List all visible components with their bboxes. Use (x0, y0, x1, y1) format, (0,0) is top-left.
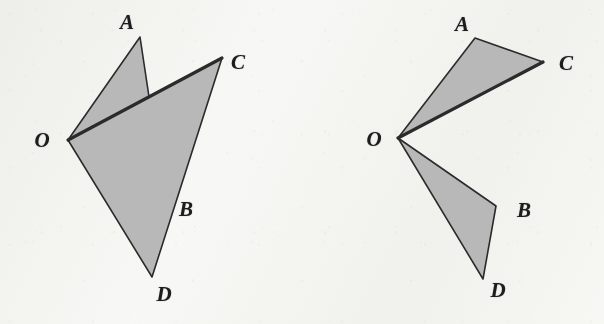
vertex-label-O: O (366, 129, 381, 150)
vertex-label-C: C (559, 53, 573, 74)
vertex-label-B: B (179, 199, 193, 220)
triangle-OBD (398, 138, 496, 279)
geometry-figure: Two triangles sharing common vertex O — … (0, 0, 604, 324)
vertex-label-D: D (156, 284, 171, 305)
vertex-label-B: B (517, 200, 531, 221)
vertex-label-O: O (34, 130, 49, 151)
vertex-label-A: A (455, 14, 469, 35)
right-panel-group (398, 38, 543, 279)
vertex-label-A: A (120, 12, 134, 33)
left-panel-group (68, 37, 222, 277)
vertex-label-D: D (490, 280, 505, 301)
figure-canvas: Two triangles sharing common vertex O — … (0, 0, 604, 324)
vertex-label-C: C (231, 52, 245, 73)
triangle-OAC (398, 38, 543, 138)
